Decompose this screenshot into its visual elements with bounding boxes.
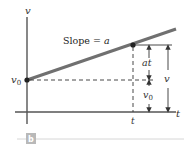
slope-label: Slope = a xyxy=(63,35,110,46)
v0-dim-label: v0 xyxy=(143,89,153,102)
at-label: at xyxy=(142,57,152,68)
intercept-dot xyxy=(24,77,29,82)
t-axis-label: t xyxy=(176,108,181,119)
v-dim-label: v xyxy=(164,73,170,84)
panel-label: b xyxy=(28,135,34,144)
velocity-time-graph: v t v0 Slope = a at v0 v t b xyxy=(0,0,185,149)
v0-intercept-label: v0 xyxy=(11,74,21,87)
v-axis-label: v xyxy=(25,5,31,16)
point-dot xyxy=(130,42,135,47)
t-mark-label: t xyxy=(131,116,135,126)
